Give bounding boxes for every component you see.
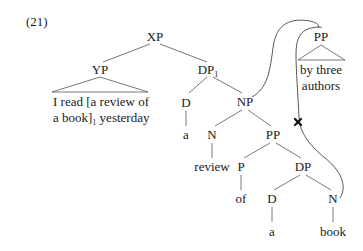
triangle-extraposed-pp: [298, 45, 345, 60]
word-a1: a: [183, 127, 189, 142]
node-n1: N: [207, 127, 217, 142]
node-extraposed-pp: PP: [314, 29, 328, 44]
edge-pp-p: [244, 143, 270, 158]
extraposed-content-line2: authors: [302, 78, 340, 93]
yp-content-line2: a book]1 yesterday: [53, 110, 150, 127]
node-d1: D: [181, 95, 190, 110]
node-dp1: DP1: [198, 62, 219, 79]
node-np: NP: [237, 94, 254, 109]
word-review: review: [194, 159, 230, 174]
edge-np-pp: [248, 110, 271, 126]
edge-xp-dp1: [160, 44, 207, 62]
node-yp: YP: [92, 62, 109, 77]
node-d2: D: [267, 191, 276, 206]
edge-xp-yp: [103, 44, 150, 62]
example-number: (21): [26, 14, 48, 29]
edge-dp-n: [306, 175, 331, 190]
triangle-yp: [52, 77, 148, 92]
node-dp: DP: [295, 159, 312, 174]
edge-dp-d: [274, 175, 300, 190]
node-xp: XP: [147, 29, 164, 44]
node-n2: N: [328, 191, 338, 206]
word-a2: a: [269, 224, 275, 239]
edge-dp1-np: [213, 77, 242, 93]
word-of: of: [236, 191, 248, 206]
extraposed-content-line1: by three: [300, 62, 342, 77]
edge-dp1-d: [189, 77, 207, 93]
syntax-tree-diagram: (21) XP YP I read [a review of a book]1 …: [0, 0, 363, 251]
yp-content-line1: I read [a review of: [53, 94, 150, 109]
node-p: P: [237, 159, 244, 174]
word-book: book: [320, 224, 347, 239]
edge-pp-dp: [276, 143, 301, 158]
edge-np-n: [215, 110, 242, 126]
blocked-movement-x-icon: [295, 119, 301, 125]
node-pp: PP: [266, 127, 280, 142]
